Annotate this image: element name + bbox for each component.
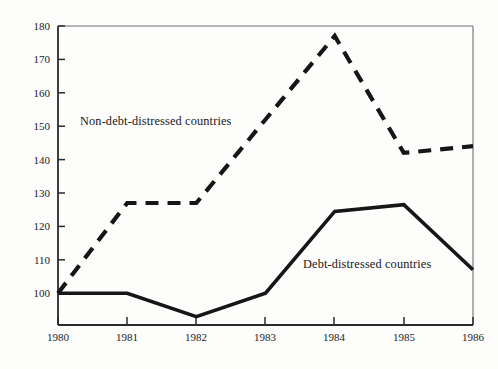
y-tick-label-160: 160: [14, 87, 50, 99]
x-tick-label-1985: 1985: [380, 331, 428, 343]
series-label-non-debt-distressed: Non-debt-distressed countries: [80, 114, 232, 128]
y-tick-label-150: 150: [14, 120, 50, 132]
x-tick-label-1983: 1983: [241, 331, 289, 343]
y-tick-label-110: 110: [14, 254, 50, 266]
y-tick-label-100: 100: [14, 287, 50, 299]
x-axis-ticks: [58, 317, 473, 325]
y-axis-ticks: [58, 26, 65, 293]
y-tick-label-140: 140: [14, 154, 50, 166]
series-label-debt-distressed: Debt-distressed countries: [303, 257, 431, 271]
x-tick-label-1986: 1986: [449, 331, 497, 343]
y-tick-label-120: 120: [14, 220, 50, 232]
y-tick-label-180: 180: [14, 20, 50, 32]
x-tick-label-1981: 1981: [103, 331, 151, 343]
x-tick-label-1984: 1984: [310, 331, 358, 343]
x-tick-label-1980: 1980: [34, 331, 82, 343]
y-tick-label-130: 130: [14, 187, 50, 199]
x-tick-label-1982: 1982: [172, 331, 220, 343]
y-tick-label-170: 170: [14, 53, 50, 65]
plot-canvas: [0, 0, 498, 369]
chart-figure: Index of group mean 180 170 160 150 140 …: [0, 0, 498, 369]
series-line-non-debt-distressed: [58, 36, 473, 293]
axis-frame: [58, 26, 473, 325]
